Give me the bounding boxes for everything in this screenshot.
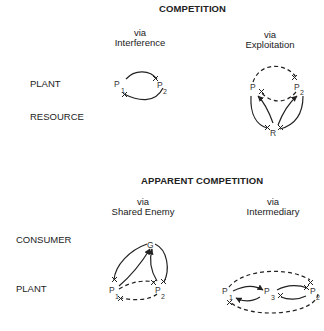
shared-enemy-p2-to-g (150, 249, 157, 281)
svg-text:2: 2 (300, 89, 304, 96)
svg-text:2: 2 (163, 88, 167, 95)
intermediary-p3-to-p1 (236, 297, 260, 301)
node-r-label: R (270, 128, 276, 138)
intermediary-dashed-top (229, 271, 310, 287)
cross-icon (122, 76, 158, 97)
node-p3-label: P (264, 286, 270, 296)
node-p1-label: P (222, 286, 228, 296)
exploitation-p1-to-r (251, 96, 267, 128)
exploitation-dashed-p1-to-p2 (253, 66, 296, 82)
svg-text:1: 1 (115, 293, 119, 300)
shared-enemy-dashed-p1-to-p2 (119, 281, 155, 289)
intermediary-p1-to-p3 (233, 286, 263, 291)
shared-enemy-p1-to-g (119, 249, 150, 286)
diagram-canvas: P 1 P 2 P P 2 R (0, 0, 324, 331)
cross-icon (227, 280, 313, 305)
exploitation-dashed-p2-to-p1 (261, 92, 296, 101)
node-p1-label: P (250, 82, 256, 92)
intermediary-p2-to-p3 (281, 296, 306, 299)
svg-text:1: 1 (229, 294, 233, 301)
intermediary-diagram (227, 271, 318, 313)
intermediary-p3-to-p2 (277, 286, 307, 290)
shared-enemy-g-to-p2 (155, 244, 167, 282)
svg-text:2: 2 (161, 293, 165, 300)
svg-text:2: 2 (316, 294, 320, 301)
svg-text:1: 1 (121, 87, 125, 94)
interference-arc-p1-to-p2 (126, 72, 157, 79)
exploitation-labels: P P 2 R (250, 82, 304, 138)
shared-enemy-dashed-p2-to-p1 (121, 294, 157, 300)
exploitation-diagram (251, 66, 303, 130)
svg-text:3: 3 (271, 294, 275, 301)
node-g-label: G (147, 240, 154, 250)
interference-labels: P 1 P 2 (114, 79, 167, 95)
node-p1-label: P (114, 79, 120, 89)
